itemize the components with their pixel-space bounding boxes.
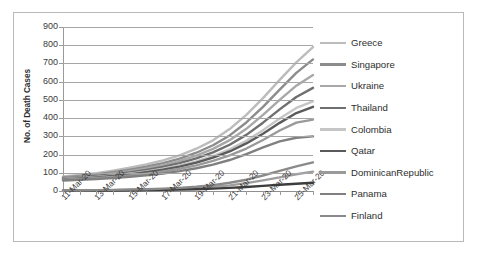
- legend-item-label: Panama: [351, 189, 387, 199]
- y-tick-mark: [59, 118, 63, 119]
- y-tick-label: 400: [24, 113, 58, 122]
- legend-item-label: Thailand: [351, 103, 388, 113]
- legend-item-ukraine[interactable]: Ukraine: [320, 80, 384, 92]
- legend-item-thailand[interactable]: Thailand: [320, 102, 388, 114]
- gridline: [63, 45, 313, 46]
- gridline: [63, 63, 313, 64]
- gridline: [63, 27, 313, 28]
- y-tick-label: 600: [24, 77, 58, 86]
- legend-swatch-icon: [320, 85, 346, 88]
- legend-item-singapore[interactable]: Singapore: [320, 59, 395, 71]
- legend-item-label: Colombia: [351, 125, 392, 135]
- y-tick-mark: [59, 82, 63, 83]
- y-tick-mark: [59, 173, 63, 174]
- y-tick-mark: [59, 155, 63, 156]
- y-tick-label: 0: [24, 186, 58, 195]
- legend-swatch-icon: [320, 193, 346, 196]
- legend-swatch-icon: [320, 42, 346, 45]
- y-tick-label: 900: [24, 22, 58, 31]
- y-tick-mark: [59, 63, 63, 64]
- chart-figure: No. of Death Cases 010020030040050060070…: [13, 12, 464, 242]
- legend-item-label: Finland: [351, 211, 382, 221]
- gridline: [63, 136, 313, 137]
- legend-item-dominicanrepublic[interactable]: DominicanRepublic: [320, 167, 434, 179]
- legend-item-colombia[interactable]: Colombia: [320, 123, 392, 135]
- gridline: [63, 155, 313, 156]
- y-axis-tick-labels: 0100200300400500600700800900: [24, 13, 58, 243]
- chart-legend: GreeceSingaporeUkraineThailandColombiaQa…: [320, 37, 465, 233]
- gridline: [63, 82, 313, 83]
- series-lines: [63, 27, 313, 191]
- y-tick-mark: [59, 27, 63, 28]
- y-tick-label: 800: [24, 40, 58, 49]
- legend-item-label: Ukraine: [351, 81, 384, 91]
- legend-item-label: Singapore: [351, 60, 395, 70]
- legend-swatch-icon: [320, 107, 346, 110]
- legend-item-qatar[interactable]: Qatar: [320, 145, 375, 157]
- legend-swatch-icon: [320, 128, 346, 131]
- y-tick-label: 200: [24, 150, 58, 159]
- y-tick-label: 700: [24, 58, 58, 67]
- legend-item-panama[interactable]: Panama: [320, 188, 387, 200]
- x-axis-tick-labels: 11-Mar-2013-Mar-2015-Mar-2017-Mar-2019-M…: [63, 193, 323, 243]
- y-tick-mark: [59, 136, 63, 137]
- y-tick-label: 500: [24, 95, 58, 104]
- y-tick-mark: [59, 45, 63, 46]
- legend-item-label: Qatar: [351, 146, 375, 156]
- legend-item-finland[interactable]: Finland: [320, 210, 382, 222]
- legend-item-greece[interactable]: Greece: [320, 37, 382, 49]
- legend-swatch-icon: [320, 171, 346, 174]
- y-tick-label: 100: [24, 168, 58, 177]
- legend-swatch-icon: [320, 63, 346, 66]
- y-tick-mark: [59, 100, 63, 101]
- plot-area: [63, 27, 313, 191]
- legend-item-label: DominicanRepublic: [351, 168, 434, 178]
- legend-swatch-icon: [320, 215, 346, 218]
- legend-swatch-icon: [320, 150, 346, 153]
- gridline: [63, 100, 313, 101]
- legend-item-label: Greece: [351, 38, 382, 48]
- y-tick-label: 300: [24, 131, 58, 140]
- gridline: [63, 118, 313, 119]
